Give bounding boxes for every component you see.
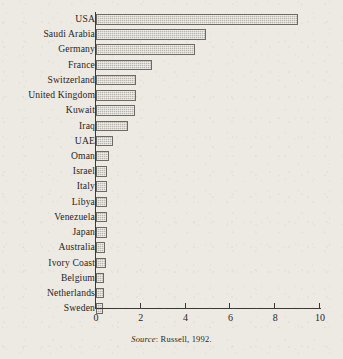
bar-row: UAE — [0, 135, 343, 150]
bar-rows: USASaudi ArabiaGermanyFranceSwitzerlandU… — [0, 13, 343, 317]
y-axis-line — [95, 12, 96, 308]
bar-row: Libya — [0, 196, 343, 211]
bar — [96, 44, 195, 55]
bar-row: Saudi Arabia — [0, 28, 343, 43]
bar — [96, 258, 106, 269]
x-axis-tick — [140, 303, 141, 308]
bar-row: Venezuela — [0, 211, 343, 226]
source-note: Source: Russell, 1992. — [0, 333, 343, 345]
bar — [96, 60, 152, 71]
bar — [96, 181, 107, 192]
bar-category-label: USA — [0, 12, 95, 25]
source-label: Source — [131, 334, 156, 344]
bar — [96, 105, 135, 116]
bar — [96, 273, 104, 284]
bar-category-label: United Kingdom — [0, 88, 95, 101]
bar-category-label: Italy — [0, 179, 95, 192]
bar-row: United Kingdom — [0, 89, 343, 104]
x-axis-tick-label: 8 — [260, 311, 290, 325]
source-text: Russell, 1992. — [161, 334, 212, 344]
bar — [96, 136, 113, 147]
bar-row: Australia — [0, 241, 343, 256]
bar-row: Japan — [0, 226, 343, 241]
bar-row: Ivory Coast — [0, 257, 343, 272]
bar — [96, 29, 206, 40]
bar — [96, 166, 107, 177]
bar — [96, 288, 104, 299]
bar-category-label: Saudi Arabia — [0, 27, 95, 40]
bar-row: Iraq — [0, 120, 343, 135]
bar-category-label: Kuwait — [0, 103, 95, 116]
x-axis-tick — [95, 303, 96, 308]
bar — [96, 121, 128, 132]
x-axis-tick — [185, 303, 186, 308]
bar-row: Kuwait — [0, 104, 343, 119]
bar-category-label: Netherlands — [0, 286, 95, 299]
bar-category-label: Iraq — [0, 119, 95, 132]
x-axis-line — [95, 308, 321, 309]
bar-row: Israel — [0, 165, 343, 180]
bar-category-label: Oman — [0, 149, 95, 162]
bar — [96, 90, 136, 101]
bar-row: Oman — [0, 150, 343, 165]
x-axis-tick-label: 2 — [126, 311, 156, 325]
bar-category-label: Australia — [0, 240, 95, 253]
bar-category-label: Germany — [0, 42, 95, 55]
bar — [96, 197, 107, 208]
bar-category-label: Japan — [0, 225, 95, 238]
bar-row: Germany — [0, 43, 343, 58]
x-axis-tick — [274, 303, 275, 308]
bar-row: France — [0, 59, 343, 74]
bar-row: Netherlands — [0, 287, 343, 302]
bar-category-label: Libya — [0, 195, 95, 208]
bar-row: Italy — [0, 180, 343, 195]
bar-category-label: Israel — [0, 164, 95, 177]
bar-category-label: Venezuela — [0, 210, 95, 223]
bar — [96, 212, 107, 223]
x-axis-tick-label: 10 — [305, 311, 335, 325]
x-axis-tick — [319, 303, 320, 308]
bar-category-label: Belgium — [0, 271, 95, 284]
bar-row: USA — [0, 13, 343, 28]
bar-row: Switzerland — [0, 74, 343, 89]
x-axis-tick-label: 6 — [215, 311, 245, 325]
x-axis-tick-label: 0 — [81, 311, 111, 325]
x-axis-tick-label: 4 — [171, 311, 201, 325]
bar-category-label: Switzerland — [0, 73, 95, 86]
bar-category-label: Ivory Coast — [0, 256, 95, 269]
bar — [96, 75, 136, 86]
bar-category-label: UAE — [0, 134, 95, 147]
bar-category-label: France — [0, 58, 95, 71]
bar-row: Belgium — [0, 272, 343, 287]
bar — [96, 151, 109, 162]
bar — [96, 242, 105, 253]
bar — [96, 227, 107, 238]
plot-area: USASaudi ArabiaGermanyFranceSwitzerlandU… — [0, 0, 343, 316]
bar — [96, 14, 298, 25]
horizontal-bar-chart: USASaudi ArabiaGermanyFranceSwitzerlandU… — [0, 0, 343, 359]
x-axis-tick — [229, 303, 230, 308]
